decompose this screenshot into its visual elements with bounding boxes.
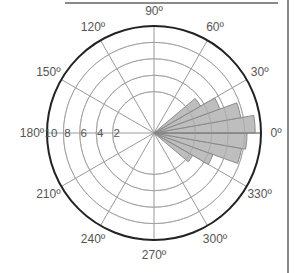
radial-tick-label: 6 (81, 127, 87, 139)
angle-tick-label: 300º (203, 232, 228, 246)
angle-tick-label: 330º (247, 187, 272, 201)
radial-tick-label: 2 (113, 127, 119, 139)
angle-tick-label: 180º (20, 126, 45, 140)
angle-tick-label: 270º (142, 248, 167, 262)
angle-tick-label: 120º (81, 20, 106, 34)
radial-tick-label: 10 (45, 127, 58, 139)
angle-tick-label: 60º (206, 20, 224, 34)
angle-tick-label: 240º (81, 232, 106, 246)
angle-tick-label: 150º (36, 65, 61, 79)
radial-tick-label: 8 (64, 127, 70, 139)
angle-tick-label: 210º (36, 187, 61, 201)
angle-tick-label: 90º (145, 4, 163, 18)
polar-rose-chart: 0º30º60º90º120º150º180º210º240º270º300º3… (0, 0, 295, 273)
angle-tick-label: 0º (270, 126, 282, 140)
radial-tick-label: 4 (97, 127, 104, 139)
angle-tick-label: 30º (251, 65, 269, 79)
